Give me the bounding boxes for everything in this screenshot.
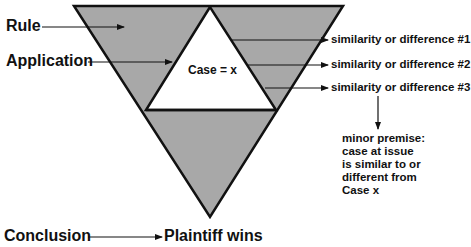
note-line: Case x — [342, 184, 467, 197]
conclusion-label: Conclusion — [4, 227, 91, 245]
note-line: case at issue — [342, 145, 467, 158]
application-label: Application — [6, 52, 93, 70]
note-line: different from — [342, 171, 467, 184]
similarity-1-label: similarity or difference #1 — [331, 33, 470, 45]
note-line: minor premise: — [342, 132, 467, 145]
note-line: is similar to or — [342, 158, 467, 171]
rule-label: Rule — [6, 17, 41, 35]
minor-premise-note: minor premise: case at issue is similar … — [342, 132, 467, 197]
outcome-label: Plaintiff wins — [164, 227, 263, 245]
similarity-3-label: similarity or difference #3 — [331, 81, 470, 93]
case-label: Case = x — [188, 63, 237, 77]
similarity-2-label: similarity or difference #2 — [331, 58, 470, 70]
